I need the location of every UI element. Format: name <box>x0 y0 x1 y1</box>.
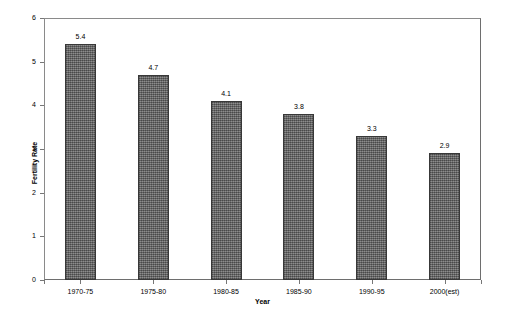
bar-group[interactable]: 2.9 <box>429 18 460 280</box>
bar-value-label: 3.8 <box>294 102 304 111</box>
y-axis-tick-label: 4 <box>32 100 36 109</box>
bar-group[interactable]: 3.8 <box>283 18 314 280</box>
bar[interactable] <box>429 153 460 280</box>
y-axis-tick-label: 0 <box>32 275 36 284</box>
x-axis-tick-label: 1970-75 <box>68 287 94 296</box>
y-axis-title: Fertility Rate <box>31 142 38 184</box>
bars-layer: 5.44.74.13.83.32.9 <box>44 18 481 280</box>
bar[interactable] <box>283 114 314 280</box>
bar-value-label: 3.3 <box>367 124 377 133</box>
bar-group[interactable]: 3.3 <box>356 18 387 280</box>
x-axis-title: Year <box>44 298 481 305</box>
bar-group[interactable]: 4.1 <box>211 18 242 280</box>
bar-value-label: 4.1 <box>221 89 231 98</box>
bar-chart-figure: 0123456 Fertility Rate 5.44.74.13.83.32.… <box>0 0 508 326</box>
bar-group[interactable]: 5.4 <box>65 18 96 280</box>
x-axis-tick-label: 1975-80 <box>140 287 166 296</box>
x-axis-tick-mark <box>445 280 446 284</box>
bar-value-label: 4.7 <box>148 63 158 72</box>
x-axis-tick-mark <box>481 280 482 284</box>
x-axis-tick-mark <box>299 280 300 284</box>
x-axis-tick-mark <box>153 280 154 284</box>
bar-group[interactable]: 4.7 <box>138 18 169 280</box>
x-axis-tick-label: 1985-90 <box>286 287 312 296</box>
bar-value-label: 5.4 <box>76 32 86 41</box>
bar-value-label: 2.9 <box>440 141 450 150</box>
x-axis-tick-mark <box>226 280 227 284</box>
x-axis-tick-label: 2000(est) <box>430 287 460 296</box>
bar[interactable] <box>211 101 242 280</box>
bar[interactable] <box>356 136 387 280</box>
x-axis-tick-label: 1990-95 <box>359 287 385 296</box>
y-axis-tick-label: 5 <box>32 57 36 66</box>
y-axis-tick-label: 6 <box>32 13 36 22</box>
y-axis-tick-label: 1 <box>32 231 36 240</box>
x-axis-tick-mark <box>44 280 45 284</box>
bar[interactable] <box>65 44 96 280</box>
x-axis-tick-mark <box>80 280 81 284</box>
x-axis-tick-label: 1980-85 <box>213 287 239 296</box>
x-axis-tick-mark <box>372 280 373 284</box>
y-axis-tick-label: 2 <box>32 188 36 197</box>
bar[interactable] <box>138 75 169 280</box>
